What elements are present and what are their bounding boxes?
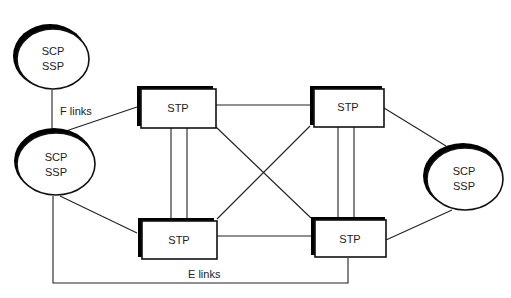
scp-ssp-node-top-left: SCP SSP — [13, 24, 89, 89]
stp-label: STP — [337, 101, 358, 113]
link-stp-tr-to-stp-bl — [217, 126, 310, 219]
stp-label: STP — [339, 233, 360, 245]
link-stp-tr-to-scp-right — [384, 108, 446, 146]
stp-node-bottom-left: STP — [138, 218, 217, 259]
signaling-network-diagram: F links E links SCP SSP SCP SSP SCP SSP … — [0, 0, 511, 298]
node-label-line1: SCP — [42, 45, 65, 57]
f-links-label: F links — [60, 105, 92, 117]
stp-label: STP — [167, 102, 188, 114]
stp-label: STP — [168, 234, 189, 246]
link-stp-br-to-scp-right — [386, 210, 452, 240]
stp-node-bottom-right: STP — [311, 217, 386, 257]
node-label-line2: SSP — [453, 180, 475, 192]
links — [52, 90, 452, 283]
stp-node-top-left: STP — [137, 86, 216, 128]
scp-ssp-node-left: SCP SSP — [14, 128, 95, 195]
scp-ssp-node-right: SCP SSP — [423, 143, 503, 210]
node-label-line1: SCP — [45, 151, 68, 163]
node-label-line2: SSP — [45, 166, 67, 178]
node-label-line2: SSP — [42, 60, 64, 72]
node-label-line1: SCP — [453, 165, 476, 177]
link-scp-left-to-stp-bottom-left — [60, 196, 137, 233]
e-links-label: E links — [188, 268, 221, 280]
stp-node-top-right: STP — [310, 86, 384, 127]
